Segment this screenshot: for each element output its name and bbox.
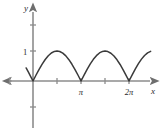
curve-path bbox=[26, 51, 151, 81]
abs-sine-plot: 1 π 2π y x bbox=[0, 0, 164, 136]
x-tick-label-pi: π bbox=[79, 87, 84, 97]
y-axis-label: y bbox=[23, 3, 28, 13]
curve-abs-sine bbox=[26, 51, 151, 81]
figure-container: 1 π 2π y x bbox=[0, 0, 164, 136]
x-axis-label: x bbox=[150, 86, 155, 96]
x-tick-label-two-pi: 2π bbox=[125, 87, 134, 97]
y-tick-label-one: 1 bbox=[23, 47, 27, 57]
